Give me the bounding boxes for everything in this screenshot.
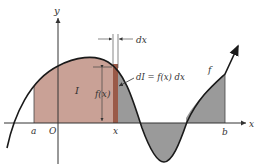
- x-axis-label: x: [249, 119, 254, 129]
- function-label: f: [207, 65, 213, 75]
- diagram-canvas: y x a O x b I f(x) dx dI = f(x) dx f: [0, 0, 257, 164]
- dx-label: dx: [136, 35, 147, 45]
- dx-strip: [113, 64, 118, 123]
- shaded-region-2: [186, 74, 225, 123]
- integral-diagram: y x a O x b I f(x) dx dI = f(x) dx f: [0, 0, 257, 164]
- origin-label: O: [49, 126, 57, 136]
- point-b-label: b: [222, 127, 228, 137]
- height-label: f(x): [94, 89, 111, 99]
- point-a-label: a: [31, 126, 36, 136]
- y-axis-label: y: [53, 5, 60, 16]
- point-x-label: x: [113, 126, 118, 136]
- differential-label: dI = f(x) dx: [136, 72, 185, 82]
